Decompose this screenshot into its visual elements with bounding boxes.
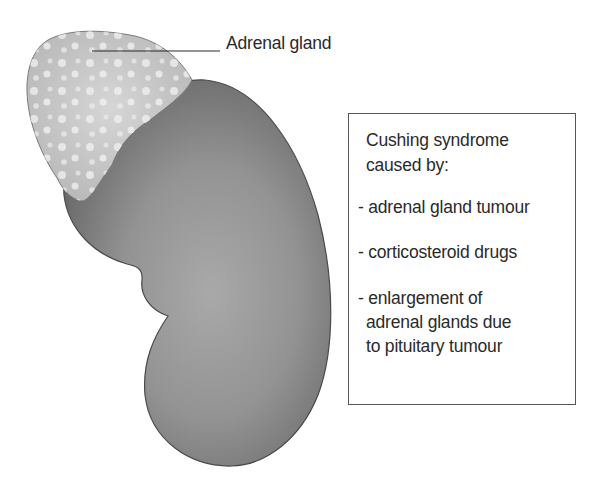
cause-text-cont: adrenal glands due [358, 310, 573, 334]
cause-item: - adrenal gland tumour [358, 195, 573, 219]
box-title-line1: Cushing syndrome [366, 130, 509, 150]
box-title: Cushing syndrome caused by: [366, 128, 566, 178]
cushing-causes-box: Cushing syndrome caused by: - adrenal gl… [348, 113, 576, 405]
box-title-line2: caused by: [366, 155, 449, 175]
cause-text-cont: to pituitary tumour [358, 334, 573, 358]
cause-item: - corticosteroid drugs [358, 240, 573, 264]
cause-text: - enlargement of [358, 288, 482, 308]
cause-item: - enlargement of adrenal glands due to p… [358, 286, 573, 358]
cause-text: - corticosteroid drugs [358, 242, 517, 262]
adrenal-gland-label: Adrenal gland [226, 33, 331, 54]
cause-text: - adrenal gland tumour [358, 197, 530, 217]
